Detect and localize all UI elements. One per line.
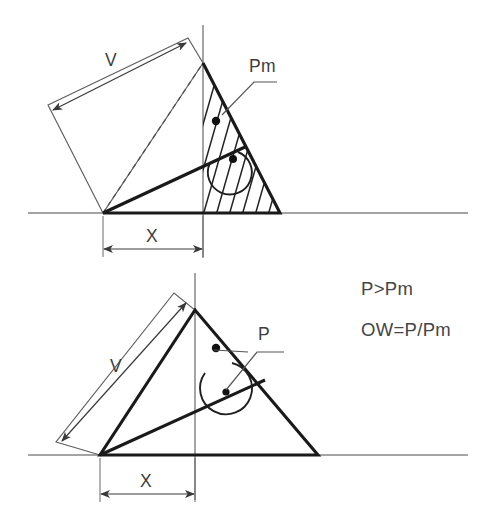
- upper-moment-label: Pm: [249, 56, 276, 76]
- lower-body-triangle: [100, 310, 318, 455]
- upper-moment-leader: [222, 82, 277, 115]
- diagram-canvas: Pm V X: [0, 0, 496, 517]
- lower-thin-quad: [56, 293, 195, 455]
- lower-dot-upper: [212, 344, 220, 352]
- upper-v-label: V: [105, 50, 117, 70]
- notes-block: P>Pm OW=P/Pm: [361, 278, 451, 340]
- lower-x-label: X: [140, 471, 152, 491]
- upper-x-label: X: [146, 226, 158, 246]
- note-ratio: OW=P/Pm: [361, 319, 451, 340]
- lower-v-label: V: [110, 356, 122, 376]
- lower-moment-label: P: [258, 324, 270, 344]
- upper-diagram: Pm V X: [28, 25, 468, 258]
- figure-root: Pm V X: [0, 0, 496, 517]
- upper-dot-lower: [229, 155, 237, 163]
- upper-dot-upper: [212, 117, 220, 125]
- lower-diagram: P V X: [28, 273, 468, 502]
- note-inequality: P>Pm: [361, 278, 413, 299]
- upper-body-triangle: [103, 63, 280, 213]
- upper-v-dimension-line: [53, 43, 186, 110]
- upper-thin-quad: [48, 38, 203, 213]
